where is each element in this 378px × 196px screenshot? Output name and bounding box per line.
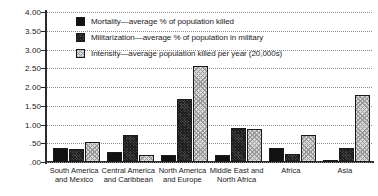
legend-item-intensity: Intensity—average population killed per … <box>76 45 312 61</box>
y-tick-mark <box>41 162 46 163</box>
y-tick-label: 1.50 <box>3 101 41 110</box>
legend-label-militarization: Militarization—average % of population i… <box>91 33 263 42</box>
gridline <box>47 162 372 163</box>
y-tick-mark <box>41 31 46 32</box>
bar <box>85 142 100 162</box>
y-tick-mark <box>41 50 46 51</box>
legend-swatch-intensity <box>76 49 85 58</box>
y-tick-mark <box>41 143 46 144</box>
y-tick-label: 2.00 <box>3 83 41 92</box>
bar <box>355 95 370 163</box>
y-tick-label: 1.00 <box>3 120 41 129</box>
x-tick-label: Middle East and North Africa <box>210 166 264 184</box>
y-tick-label: 2.50 <box>3 64 41 73</box>
clipped-title-strip <box>120 0 370 6</box>
y-tick-mark <box>41 87 46 88</box>
y-tick-mark <box>41 106 46 107</box>
y-tick-mark <box>41 12 46 13</box>
y-tick-label: 4.00 <box>3 8 41 17</box>
legend-item-mortality: Mortality—average % of population killed <box>76 13 312 29</box>
y-axis-labels: 4.003.503.002.502.001.501.00.50.00 <box>0 0 41 196</box>
x-tick-label: North America and Europe <box>155 166 209 184</box>
bar <box>247 129 262 162</box>
legend-label-intensity: Intensity—average population killed per … <box>91 49 282 58</box>
x-tick-label: South America and Mexico <box>47 166 101 184</box>
y-tick-label: 3.50 <box>3 26 41 35</box>
legend-swatch-militarization <box>76 33 85 42</box>
bar <box>339 148 354 162</box>
bar <box>215 155 230 162</box>
x-tick-label: Africa <box>264 166 318 175</box>
bar <box>301 135 316 162</box>
legend-swatch-mortality <box>76 17 85 26</box>
y-tick-mark <box>41 68 46 69</box>
bar-chart: 4.003.503.002.502.001.501.00.50.00 South… <box>0 0 378 196</box>
legend-item-militarization: Militarization—average % of population i… <box>76 29 312 45</box>
bar-group <box>323 12 370 162</box>
bar <box>177 99 192 162</box>
y-tick-label: .50 <box>3 139 41 148</box>
bar <box>193 66 208 162</box>
legend-label-mortality: Mortality—average % of population killed <box>91 17 234 26</box>
bar <box>269 148 284 162</box>
bar <box>123 135 138 162</box>
y-tick-label: 3.00 <box>3 45 41 54</box>
bar <box>53 148 68 162</box>
bar <box>285 154 300 162</box>
y-tick-mark <box>41 125 46 126</box>
bar <box>231 128 246 162</box>
bar <box>161 155 176 163</box>
bar <box>323 160 338 162</box>
y-tick-label: .00 <box>3 158 41 167</box>
x-tick-label: Central America and Caribbean <box>101 166 155 184</box>
bar <box>69 149 84 162</box>
chart-legend: Mortality—average % of population killed… <box>76 13 312 61</box>
x-tick-label: Asia <box>318 166 372 175</box>
bar <box>107 152 122 163</box>
bar <box>139 155 154 163</box>
